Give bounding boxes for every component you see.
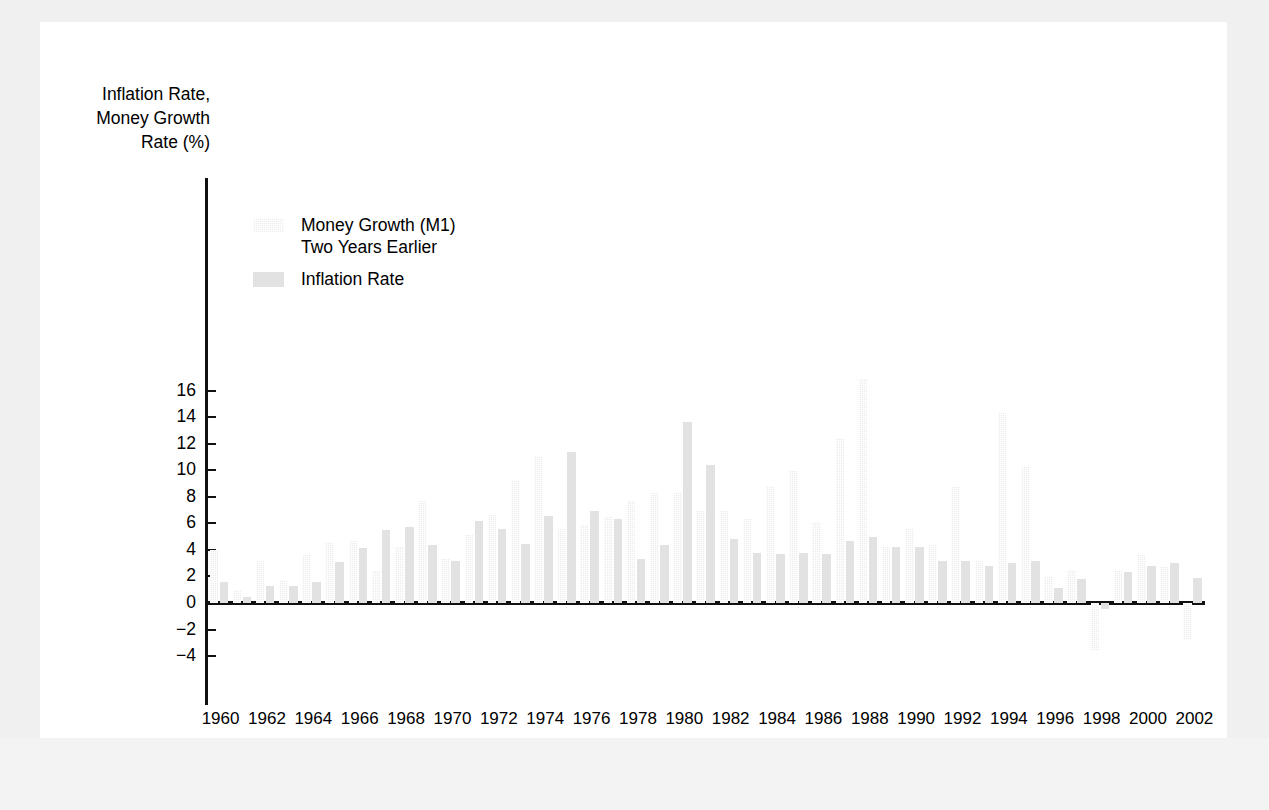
- bar-inflation-rate: [1147, 566, 1156, 603]
- bar-inflation-rate: [660, 545, 669, 603]
- bar-money-growth: [349, 541, 358, 603]
- bar-money-growth: [696, 511, 705, 603]
- bar-money-growth: [1137, 555, 1146, 603]
- bar-inflation-rate: [220, 582, 229, 603]
- x-tick-label: 1966: [341, 710, 379, 727]
- y-tick-mark: [206, 416, 216, 418]
- bar-money-growth: [998, 413, 1007, 603]
- y-tick-mark: [206, 496, 216, 498]
- x-tick-label: 1990: [897, 710, 935, 727]
- bar-inflation-rate: [405, 527, 414, 603]
- y-tick-label: 12: [150, 435, 196, 453]
- bar-money-growth: [1067, 570, 1076, 603]
- bar-inflation-rate: [614, 519, 623, 603]
- bar-inflation-rate: [683, 422, 692, 603]
- bar-inflation-rate: [1170, 563, 1179, 603]
- bar-inflation-rate: [475, 521, 484, 603]
- bar-inflation-rate: [1031, 561, 1040, 603]
- y-tick-label: 2: [150, 567, 196, 585]
- bar-money-growth: [859, 379, 868, 603]
- bar-inflation-rate: [451, 561, 460, 603]
- y-tick-mark: [206, 522, 216, 524]
- x-tick-label: 2002: [1175, 710, 1213, 727]
- bar-inflation-rate: [706, 465, 715, 603]
- y-tick-label: 6: [150, 514, 196, 532]
- bar-inflation-rate: [590, 511, 599, 603]
- bar-money-growth: [302, 555, 311, 603]
- bar-money-growth: [905, 529, 914, 603]
- bar-money-growth: [441, 559, 450, 603]
- bar-inflation-rate: [1054, 588, 1063, 603]
- bar-money-growth: [743, 519, 752, 603]
- legend-swatch-inflation-icon: [253, 272, 284, 287]
- bar-money-growth: [1183, 603, 1192, 640]
- bar-inflation-rate: [892, 547, 901, 603]
- x-tick-label: 1968: [387, 710, 425, 727]
- x-tick-label: 1984: [758, 710, 796, 727]
- bar-inflation-rate: [961, 561, 970, 603]
- bar-inflation-rate: [312, 582, 321, 603]
- bar-money-growth: [604, 516, 613, 603]
- x-tick-label: 1972: [480, 710, 518, 727]
- bar-money-growth: [789, 471, 798, 603]
- bar-money-growth: [325, 542, 334, 603]
- y-tick-mark: [206, 629, 216, 631]
- bar-money-growth: [1114, 570, 1123, 603]
- bar-inflation-rate: [730, 539, 739, 603]
- y-tick-mark: [206, 443, 216, 445]
- bar-inflation-rate: [359, 548, 368, 603]
- y-axis-line: [205, 178, 208, 705]
- y-tick-mark: [206, 390, 216, 392]
- y-tick-label: 10: [150, 461, 196, 479]
- bar-inflation-rate: [846, 541, 855, 603]
- bar-inflation-rate: [753, 553, 762, 603]
- bar-money-growth: [418, 501, 427, 603]
- bar-inflation-rate: [335, 562, 344, 603]
- bar-money-growth: [1044, 576, 1053, 603]
- bar-money-growth: [580, 525, 589, 603]
- bar-inflation-rate: [498, 529, 507, 603]
- bar-money-growth: [233, 590, 242, 603]
- x-tick-label: 1960: [202, 710, 240, 727]
- bar-inflation-rate: [243, 597, 252, 603]
- bar-inflation-rate: [567, 452, 576, 603]
- chart-page: Inflation Rate, Money Growth Rate (%) 16…: [0, 0, 1269, 810]
- bar-money-growth: [951, 486, 960, 603]
- y-tick-label: −2: [150, 621, 196, 639]
- legend-item-inflation-rate: Inflation Rate: [253, 268, 456, 290]
- bar-money-growth: [557, 529, 566, 603]
- bar-inflation-rate: [985, 566, 994, 603]
- bar-inflation-rate: [1193, 578, 1202, 603]
- bar-money-growth: [210, 550, 219, 603]
- bar-inflation-rate: [822, 554, 831, 603]
- bar-money-growth: [534, 456, 543, 603]
- bar-inflation-rate: [637, 559, 646, 603]
- bar-money-growth: [673, 493, 682, 603]
- legend-item-money-growth: Money Growth (M1) Two Years Earlier: [253, 214, 456, 258]
- bar-money-growth: [1160, 566, 1169, 603]
- y-tick-mark: [206, 469, 216, 471]
- bar-money-growth: [395, 547, 404, 603]
- bar-money-growth: [256, 561, 265, 603]
- x-tick-label: 1996: [1036, 710, 1074, 727]
- bar-money-growth: [1091, 603, 1100, 651]
- bar-money-growth: [465, 535, 474, 603]
- bar-money-growth: [1021, 466, 1030, 603]
- bar-inflation-rate: [428, 545, 437, 603]
- y-tick-label: 14: [150, 408, 196, 426]
- bar-money-growth: [928, 545, 937, 603]
- bar-inflation-rate: [544, 516, 553, 603]
- x-tick-label: 1998: [1083, 710, 1121, 727]
- bar-inflation-rate: [1101, 603, 1110, 609]
- bar-money-growth: [882, 547, 891, 603]
- bar-inflation-rate: [1124, 572, 1133, 603]
- bar-money-growth: [488, 515, 497, 603]
- bar-money-growth: [511, 480, 520, 603]
- x-tick-label: 1994: [990, 710, 1028, 727]
- bar-inflation-rate: [938, 561, 947, 603]
- bar-inflation-rate: [1008, 563, 1017, 603]
- bar-inflation-rate: [266, 586, 275, 603]
- bar-money-growth: [372, 571, 381, 603]
- x-tick-label: 1974: [526, 710, 564, 727]
- bar-inflation-rate: [382, 530, 391, 603]
